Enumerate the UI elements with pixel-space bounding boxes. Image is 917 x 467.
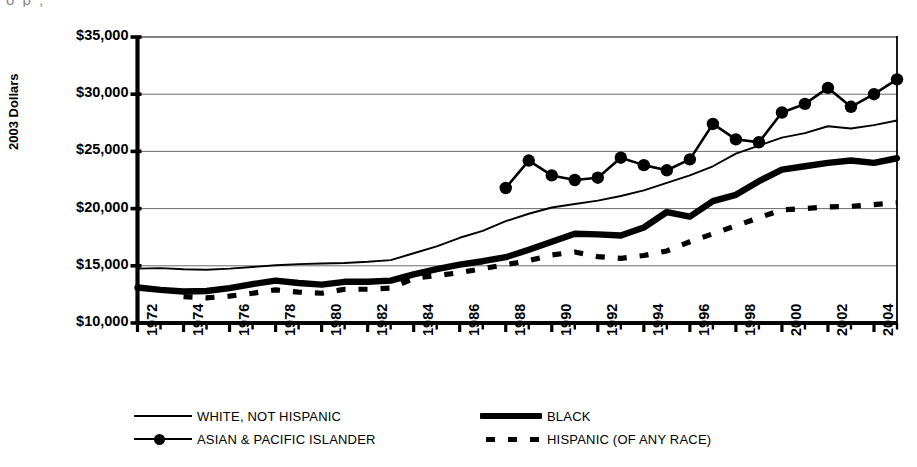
x-tick-label: 1996 [696,304,712,336]
x-tick-label: 1980 [328,304,344,336]
data-point-marker [661,164,673,176]
data-point-marker [845,101,857,113]
data-point-marker [799,98,811,110]
data-series-layer [138,73,904,298]
chart-page: o p , 2003 Dollars $10,000$15,000$20,000… [0,0,917,467]
x-tick-label: 2002 [834,304,850,336]
x-tick-label: 1978 [282,304,298,336]
swatch-dash [486,437,495,442]
series-line [138,158,898,291]
data-point-marker [730,133,742,145]
x-tick-label: 1998 [742,304,758,336]
data-point-marker [707,118,719,130]
data-point-marker [500,182,512,194]
data-point-marker [592,172,604,184]
x-tick-label: 2000 [788,304,804,336]
legend-label: BLACK [547,409,591,424]
legend-item: HISPANIC (OF ANY RACE) [478,429,711,449]
legend-item: BLACK [478,406,591,426]
x-tick-label: 1982 [374,304,390,336]
y-tick-label: $20,000 [39,199,129,215]
data-point-marker [753,136,765,148]
swatch-thick-line [480,413,542,419]
legend-item: WHITE, NOT HISPANIC [128,406,341,426]
swatch-dash [530,437,539,442]
swatch-dash [508,437,517,442]
y-tick-label: $30,000 [39,84,129,100]
x-tick-label: 1974 [190,304,206,336]
x-tick-label: 1990 [558,304,574,336]
series-thick-line [138,158,898,291]
gridlines [138,37,898,266]
x-tick-label: 1988 [512,304,528,336]
x-tick-label: 1976 [236,304,252,336]
legend-label: HISPANIC (OF ANY RACE) [547,432,711,447]
y-tick-label: $25,000 [39,141,129,157]
legend-label: WHITE, NOT HISPANIC [197,409,341,424]
data-point-marker [684,153,696,165]
series-line [138,121,898,270]
x-tick-label: 1992 [604,304,620,336]
legend-swatch-thin-line [128,407,192,425]
legend-swatch-line-marker [128,430,192,448]
x-tick-label: 1984 [420,304,436,336]
x-tick-label: 2004 [880,304,896,336]
swatch-marker-dot [154,434,165,445]
data-point-marker [615,151,627,163]
legend-label: ASIAN & PACIFIC ISLANDER [197,432,376,447]
data-point-marker [569,174,581,186]
line-chart-plot [0,0,917,467]
swatch-line [134,415,192,417]
series-thin-line [138,121,898,270]
chart-legend: WHITE, NOT HISPANICBLACKASIAN & PACIFIC … [0,406,917,458]
legend-swatch-dashed-line [478,430,542,448]
data-point-marker [776,106,788,118]
y-tick-label: $35,000 [39,27,129,43]
y-tick-label: $15,000 [39,256,129,272]
x-tick-label: 1986 [466,304,482,336]
data-point-marker [822,82,834,94]
data-point-marker [868,88,880,100]
series-line-marker [500,73,904,194]
y-tick-label: $10,000 [39,313,129,329]
legend-item: ASIAN & PACIFIC ISLANDER [128,429,376,449]
data-point-marker [891,73,903,85]
data-point-marker [523,154,535,166]
data-point-marker [638,159,650,171]
legend-swatch-thick-line [478,407,542,425]
x-tick-label: 1972 [144,304,160,336]
data-point-marker [546,169,558,181]
x-tick-label: 1994 [650,304,666,336]
